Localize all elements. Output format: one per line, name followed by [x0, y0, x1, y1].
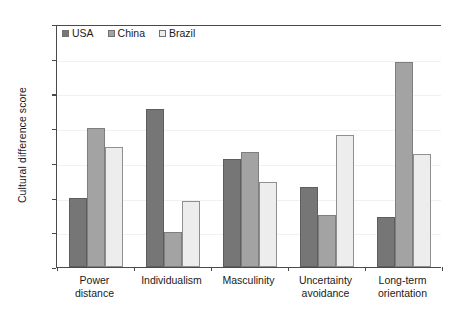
- legend-swatch-icon: [62, 30, 69, 37]
- x-axis-category-label: Individualism: [133, 274, 210, 287]
- bar[interactable]: [182, 201, 200, 267]
- x-axis-tick-mark: [211, 267, 212, 271]
- legend-swatch-icon: [108, 30, 115, 37]
- bar-group: [211, 26, 288, 267]
- bar-group: [134, 26, 211, 267]
- bar[interactable]: [146, 109, 164, 267]
- bar[interactable]: [223, 159, 241, 267]
- x-axis-tick-mark: [442, 267, 443, 271]
- bar[interactable]: [241, 152, 259, 267]
- bar[interactable]: [300, 187, 318, 267]
- x-axis-category-label: Long-termorientation: [364, 274, 441, 299]
- bar[interactable]: [69, 198, 87, 267]
- chart-legend: USAChinaBrazil: [62, 28, 195, 39]
- bar-group: [288, 26, 365, 267]
- bar[interactable]: [259, 182, 277, 267]
- y-axis-tick-mark: [52, 268, 56, 269]
- x-axis-tick-mark: [134, 267, 135, 271]
- x-axis-category-label: Masculinity: [210, 274, 287, 287]
- bar[interactable]: [413, 154, 431, 267]
- x-axis-tick-mark: [288, 267, 289, 271]
- bar-group: [365, 26, 442, 267]
- bar[interactable]: [105, 147, 123, 267]
- x-axis-category-label: Uncertaintyavoidance: [287, 274, 364, 299]
- bar-chart: Cultural difference score 02040608010012…: [0, 0, 461, 314]
- x-axis-category-label: Powerdistance: [56, 274, 133, 299]
- bar-group: [57, 26, 134, 267]
- legend-swatch-icon: [159, 30, 166, 37]
- legend-item[interactable]: USA: [62, 28, 94, 39]
- x-axis-tick-mark: [365, 267, 366, 271]
- x-axis-tick-mark: [57, 267, 58, 271]
- y-axis-title: Cultural difference score: [14, 5, 30, 285]
- bar[interactable]: [395, 62, 413, 267]
- legend-item[interactable]: China: [108, 28, 145, 39]
- legend-label: Brazil: [169, 28, 195, 39]
- legend-item[interactable]: Brazil: [159, 28, 195, 39]
- legend-label: China: [118, 28, 145, 39]
- plot-area: [56, 25, 441, 268]
- legend-label: USA: [72, 28, 94, 39]
- bar[interactable]: [318, 215, 336, 267]
- bar[interactable]: [164, 232, 182, 267]
- bar[interactable]: [336, 135, 354, 267]
- bar[interactable]: [87, 128, 105, 267]
- bar[interactable]: [377, 217, 395, 267]
